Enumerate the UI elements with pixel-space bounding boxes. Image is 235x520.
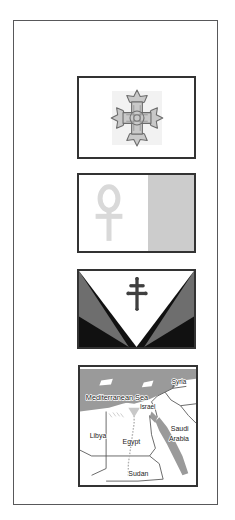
panel-coptic-cross-flag	[77, 76, 196, 159]
map-label-israel: Israel	[140, 403, 156, 410]
ankh-icon	[92, 184, 126, 242]
patriarchal-cross-icon	[126, 277, 148, 311]
map-label-mediterranean-sea: Mediterranean Sea	[86, 393, 149, 402]
map-label-libya: Libya	[90, 432, 107, 440]
outer-frame: Mediterranean Sea Syria Israel Libya Egy…	[13, 20, 218, 505]
map-label-arabia: Arabia	[169, 435, 189, 442]
map-label-saudi: Saudi	[171, 425, 189, 432]
map-graphic: Mediterranean Sea Syria Israel Libya Egy…	[80, 367, 196, 485]
map-label-syria: Syria	[172, 378, 187, 386]
ankh-flag-gray-half	[148, 175, 194, 251]
ankh-flag-field	[79, 175, 194, 251]
chevron-flag-field	[79, 271, 194, 347]
panel-ankh-flag	[77, 173, 196, 253]
map-label-egypt: Egypt	[123, 438, 141, 446]
map-label-sudan: Sudan	[128, 470, 148, 477]
coptic-flag-field	[79, 78, 194, 157]
panel-map: Mediterranean Sea Syria Israel Libya Egy…	[78, 365, 198, 487]
coptic-cross-icon	[110, 89, 164, 147]
panel-chevron-flag	[77, 269, 196, 349]
page-root: Mediterranean Sea Syria Israel Libya Egy…	[0, 0, 235, 520]
